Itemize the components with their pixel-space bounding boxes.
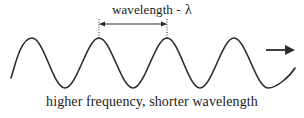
measure-arrowhead-right [161,22,167,27]
wavelength-label: wavelength - λ [0,2,304,18]
lambda-symbol: λ [184,2,192,17]
wave-curve [11,38,295,88]
wavelength-label-text: wavelength - [112,2,184,17]
propagation-arrow-head [285,45,295,55]
figure-caption: higher frequency, shorter wavelength [0,94,304,110]
wave-diagram: wavelength - λ higher frequency, shorter… [0,0,304,118]
measure-arrowhead-left [99,22,105,27]
